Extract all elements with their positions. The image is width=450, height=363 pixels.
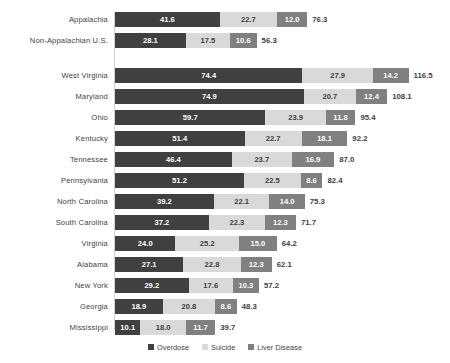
bar-segment-liver-disease: 10.6 <box>230 33 257 48</box>
bar-total-label: 64.2 <box>277 236 297 251</box>
category-label: New York <box>0 278 108 293</box>
bar-segment-suicide: 22.1 <box>214 194 270 209</box>
bar-total-label: 116.5 <box>409 68 433 83</box>
bar-segment-overdose: 24.0 <box>115 236 175 251</box>
bar-total-label: 39.7 <box>215 320 235 335</box>
category-label: Alabama <box>0 257 108 272</box>
bar-row: North Carolina39.222.114.075.3 <box>0 194 450 215</box>
bar-segment-liver-disease: 12.4 <box>356 89 387 104</box>
bar-track: 28.117.510.6 <box>115 33 257 48</box>
bar-segment-suicide: 22.5 <box>244 173 301 188</box>
bar-row: Maryland74.920.712.4108.1 <box>0 89 450 110</box>
bar-segment-liver-disease: 12.3 <box>241 257 272 272</box>
bar-row: West Virginia74.427.914.2116.5 <box>0 68 450 89</box>
legend-swatch-liver-disease-icon <box>248 344 254 350</box>
category-label: Kentucky <box>0 131 108 146</box>
bar-total-label: 87.0 <box>334 152 354 167</box>
legend-label: Liver Disease <box>257 343 302 352</box>
plot-area: Appalachia41.622.712.076.3Non-Appalachia… <box>0 12 450 330</box>
bar-row: Non-Appalachian U.S.28.117.510.656.3 <box>0 33 450 54</box>
bar-row: Georgia18.920.88.648.3 <box>0 299 450 320</box>
legend-item[interactable]: Suicide <box>202 343 235 352</box>
bar-segment-overdose: 59.7 <box>115 110 265 125</box>
legend-item[interactable]: Overdose <box>148 343 189 352</box>
bar-track: 39.222.114.0 <box>115 194 305 209</box>
bar-segment-suicide: 22.3 <box>209 215 265 230</box>
bar-segment-suicide: 17.6 <box>189 278 233 293</box>
bar-segment-overdose: 74.9 <box>115 89 304 104</box>
bar-row: New York29.217.610.357.2 <box>0 278 450 299</box>
bar-segment-liver-disease: 12.3 <box>265 215 296 230</box>
bar-segment-overdose: 39.2 <box>115 194 214 209</box>
bar-segment-overdose: 27.1 <box>115 257 183 272</box>
bar-row: South Carolina37.222.312.371.7 <box>0 215 450 236</box>
category-label: Pennsylvania <box>0 173 108 188</box>
bar-total-label: 108.1 <box>387 89 412 104</box>
legend-item[interactable]: Liver Disease <box>248 343 302 352</box>
bar-total-label: 56.3 <box>257 33 277 48</box>
bar-segment-suicide: 22.7 <box>220 12 277 27</box>
bar-track: 24.025.215.0 <box>115 236 277 251</box>
bar-row: Mississippi10.118.011.739.7 <box>0 320 450 341</box>
bar-row: Alabama27.122.812.362.1 <box>0 257 450 278</box>
bar-track: 74.920.712.4 <box>115 89 387 104</box>
bar-row: Ohio59.723.911.895.4 <box>0 110 450 131</box>
bar-total-label: 82.4 <box>322 173 342 188</box>
bar-row: Virginia24.025.215.064.2 <box>0 236 450 257</box>
bar-segment-suicide: 22.7 <box>245 131 302 146</box>
bar-row: Appalachia41.622.712.076.3 <box>0 12 450 33</box>
bar-segment-suicide: 22.8 <box>183 257 240 272</box>
bar-track: 18.920.88.6 <box>115 299 237 314</box>
bar-track: 51.422.718.1 <box>115 131 347 146</box>
bar-total-label: 57.2 <box>259 278 279 293</box>
chart-legend: OverdoseSuicideLiver Disease <box>0 340 450 354</box>
bar-segment-overdose: 18.9 <box>115 299 163 314</box>
category-label: Maryland <box>0 89 108 104</box>
bar-total-label: 75.3 <box>305 194 325 209</box>
bar-segment-overdose: 10.1 <box>115 320 140 335</box>
bar-total-label: 48.3 <box>237 299 257 314</box>
legend-label: Overdose <box>157 343 189 352</box>
bar-segment-suicide: 27.9 <box>302 68 372 83</box>
category-label: Virginia <box>0 236 108 251</box>
bar-segment-liver-disease: 18.1 <box>302 131 348 146</box>
category-label: Non-Appalachian U.S. <box>0 33 108 48</box>
bar-track: 51.222.58.6 <box>115 173 322 188</box>
bar-segment-suicide: 20.7 <box>304 89 356 104</box>
category-label: South Carolina <box>0 215 108 230</box>
bar-segment-liver-disease: 14.2 <box>373 68 409 83</box>
bar-track: 27.122.812.3 <box>115 257 272 272</box>
bar-segment-suicide: 25.2 <box>175 236 239 251</box>
bar-segment-liver-disease: 12.0 <box>277 12 307 27</box>
bar-segment-overdose: 51.4 <box>115 131 245 146</box>
category-label: Ohio <box>0 110 108 125</box>
bar-segment-liver-disease: 15.0 <box>239 236 277 251</box>
bar-segment-liver-disease: 11.8 <box>326 110 356 125</box>
bar-segment-suicide: 17.5 <box>186 33 230 48</box>
group-separator <box>0 54 450 68</box>
bar-track: 59.723.911.8 <box>115 110 355 125</box>
category-label: West Virginia <box>0 68 108 83</box>
bar-total-label: 95.4 <box>355 110 375 125</box>
bar-row: Tennessee46.423.716.987.0 <box>0 152 450 173</box>
legend-label: Suicide <box>211 343 235 352</box>
bar-total-label: 76.3 <box>307 12 327 27</box>
bar-segment-suicide: 20.8 <box>163 299 215 314</box>
category-label: Appalachia <box>0 12 108 27</box>
category-label: Mississippi <box>0 320 108 335</box>
bar-track: 37.222.312.3 <box>115 215 296 230</box>
legend-swatch-suicide-icon <box>202 344 208 350</box>
category-label: Georgia <box>0 299 108 314</box>
bar-segment-liver-disease: 8.6 <box>215 299 237 314</box>
bar-segment-liver-disease: 10.3 <box>233 278 259 293</box>
bar-row: Kentucky51.422.718.192.2 <box>0 131 450 152</box>
bar-segment-suicide: 23.7 <box>232 152 292 167</box>
bar-track: 41.622.712.0 <box>115 12 307 27</box>
bar-segment-overdose: 29.2 <box>115 278 189 293</box>
bar-segment-overdose: 37.2 <box>115 215 209 230</box>
bar-track: 74.427.914.2 <box>115 68 409 83</box>
bar-track: 10.118.011.7 <box>115 320 215 335</box>
bar-segment-liver-disease: 8.6 <box>301 173 323 188</box>
bar-segment-suicide: 18.0 <box>140 320 185 335</box>
bar-segment-liver-disease: 16.9 <box>292 152 335 167</box>
